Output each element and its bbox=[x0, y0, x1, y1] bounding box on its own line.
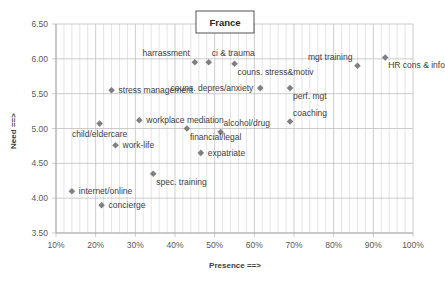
data-label: couns. stress&motiv bbox=[238, 67, 315, 77]
chart-title: France bbox=[209, 17, 240, 28]
y-tick-label: 5.50 bbox=[31, 89, 48, 99]
data-label: perf. mgt bbox=[293, 91, 327, 101]
data-label: workplace mediation bbox=[145, 115, 224, 125]
x-tick-label: 30% bbox=[127, 240, 144, 250]
data-label: concierge bbox=[109, 200, 146, 210]
x-tick-label: 100% bbox=[402, 240, 424, 250]
data-label: harrassment bbox=[143, 48, 191, 58]
chart-title-box: France bbox=[196, 11, 254, 33]
data-label: work-life bbox=[122, 140, 155, 150]
x-axis-title: Presence ==> bbox=[209, 261, 261, 270]
data-label: internet/online bbox=[79, 186, 133, 196]
scatter-chart: 10%20%30%40%50%60%70%80%90%100% 3.504.00… bbox=[0, 0, 445, 284]
data-label: expatriate bbox=[208, 148, 246, 158]
data-label: coaching bbox=[293, 108, 327, 118]
data-label: alcohol/drug bbox=[224, 118, 271, 128]
x-tick-label: 20% bbox=[87, 240, 104, 250]
data-label: ci & trauma bbox=[212, 48, 255, 58]
data-label: financial/legal bbox=[190, 132, 242, 142]
y-axis-title: Need ==> bbox=[9, 113, 18, 149]
y-tick-label: 4.50 bbox=[31, 158, 48, 168]
y-tick-label: 6.00 bbox=[31, 54, 48, 64]
x-tick-label: 90% bbox=[365, 240, 382, 250]
data-label: couns. depres/anxiety bbox=[171, 83, 254, 93]
data-label: mgt training bbox=[308, 52, 353, 62]
data-label: HR cons & info bbox=[388, 60, 445, 70]
x-tick-label: 50% bbox=[206, 240, 223, 250]
y-tick-label: 3.50 bbox=[31, 228, 48, 238]
x-tick-label: 80% bbox=[325, 240, 342, 250]
y-tick-label: 4.00 bbox=[31, 193, 48, 203]
y-tick-label: 6.50 bbox=[31, 19, 48, 29]
x-tick-label: 70% bbox=[285, 240, 302, 250]
x-tick-label: 10% bbox=[47, 240, 64, 250]
x-tick-label: 40% bbox=[166, 240, 183, 250]
data-label: child/eldercare bbox=[72, 129, 128, 139]
x-tick-label: 60% bbox=[246, 240, 263, 250]
y-tick-label: 5.00 bbox=[31, 124, 48, 134]
data-label: spec. training bbox=[156, 177, 207, 187]
